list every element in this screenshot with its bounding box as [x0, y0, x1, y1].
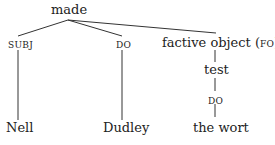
relation-fo-abbrev: FO [260, 39, 274, 49]
relation-fo-close: ) [274, 35, 275, 50]
node-test: test [204, 63, 229, 77]
root-node: made [51, 3, 87, 17]
relation-fo-text: factive object ( [162, 35, 260, 50]
relation-factive-object: factive object (FO) [162, 36, 275, 51]
relation-sub-do: DO [208, 94, 223, 108]
node-dudley: Dudley [103, 121, 149, 135]
node-nell: Nell [6, 121, 33, 135]
node-the-wort: the wort [193, 121, 249, 135]
edge-made-subj [18, 20, 68, 36]
relation-do: DO [116, 38, 131, 52]
relation-subj: SUBJ [8, 38, 33, 52]
